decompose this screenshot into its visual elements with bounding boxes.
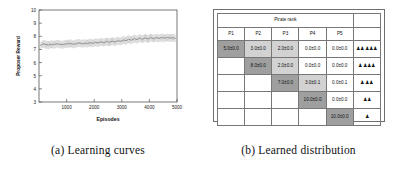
column-header-p2: P2: [245, 28, 272, 41]
svg-text:9: 9: [33, 21, 36, 26]
icon-column-corner: [353, 28, 380, 41]
panel-b-caption: (b) Learned distribution: [196, 144, 401, 156]
group-header-pirate-rank: Pirate rank: [218, 14, 354, 28]
table-group-header-row: Pirate rank: [218, 14, 381, 28]
value-cell-p2: 8.0±0.0: [245, 58, 272, 75]
panel-learned-distribution: Pirate rank P1P2P3P4P5 5.0±0.03.0±0.02.0…: [196, 0, 401, 170]
value-cell-p5: 0.0±0.0: [326, 92, 353, 109]
empty-cell: [245, 75, 272, 92]
table-row: 7.0±0.03.0±0.10.0±0.1♟♟♟: [218, 75, 381, 92]
svg-text:5000: 5000: [172, 105, 183, 110]
empty-cell: [218, 75, 245, 92]
svg-text:Episodes: Episodes: [96, 116, 119, 122]
pirate-count-icon: ♟♟♟: [353, 75, 380, 92]
column-header-p1: P1: [218, 28, 245, 41]
icon-column-corner-top: [353, 14, 380, 28]
value-cell-p3: 7.0±0.0: [272, 75, 299, 92]
chart-plot-area: 34567891010002000300040005000EpisodesPro…: [13, 6, 183, 124]
value-cell-p5: 0.0±0.0: [326, 58, 353, 75]
table-body: 5.0±0.03.0±0.02.0±0.00.0±0.00.0±0.0♟♟♟♟♟…: [218, 41, 381, 126]
value-cell-p1: 5.0±0.0: [218, 41, 245, 58]
figure-container: 34567891010002000300040005000EpisodesPro…: [0, 0, 401, 170]
table-row: 8.0±0.02.0±0.00.0±0.00.0±0.0♟♟♟♟: [218, 58, 381, 75]
distribution-table-frame: Pirate rank P1P2P3P4P5 5.0±0.03.0±0.02.0…: [213, 9, 385, 122]
column-header-p5: P5: [326, 28, 353, 41]
table-column-header-row: P1P2P3P4P5: [218, 28, 381, 41]
svg-text:2000: 2000: [89, 105, 100, 110]
svg-text:3000: 3000: [117, 105, 128, 110]
table-row: 10.0±0.00.0±0.0♟♟: [218, 92, 381, 109]
pirate-count-icon: ♟♟: [353, 92, 380, 109]
svg-text:6: 6: [33, 61, 36, 66]
svg-text:8: 8: [33, 34, 36, 39]
value-cell-p4: 0.0±0.0: [299, 41, 326, 58]
svg-text:5: 5: [33, 74, 36, 79]
empty-cell: [272, 109, 299, 126]
value-cell-p3: 2.0±0.0: [272, 58, 299, 75]
column-header-p4: P4: [299, 28, 326, 41]
learning-curve-chart: 34567891010002000300040005000EpisodesPro…: [13, 6, 183, 124]
panel-a-caption: (a) Learning curves: [0, 144, 196, 156]
svg-text:7: 7: [33, 47, 36, 52]
table-head: Pirate rank P1P2P3P4P5: [218, 14, 381, 41]
value-cell-p5: 0.0±0.0: [326, 41, 353, 58]
pirate-count-icon: ♟♟♟♟: [353, 58, 380, 75]
pirate-count-icon: ♟♟♟♟♟: [353, 41, 380, 58]
empty-cell: [245, 92, 272, 109]
column-header-p3: P3: [272, 28, 299, 41]
svg-text:4: 4: [33, 87, 36, 92]
value-cell-p4: 10.0±0.0: [299, 92, 326, 109]
pirate-count-icon: ♟: [353, 109, 380, 126]
empty-cell: [218, 58, 245, 75]
value-cell-p5: 10.0±0.0: [326, 109, 353, 126]
table-row: 5.0±0.03.0±0.02.0±0.00.0±0.00.0±0.0♟♟♟♟♟: [218, 41, 381, 58]
table-row: 10.0±0.0♟: [218, 109, 381, 126]
svg-text:1000: 1000: [61, 105, 72, 110]
empty-cell: [272, 92, 299, 109]
panel-learning-curves: 34567891010002000300040005000EpisodesPro…: [0, 0, 196, 170]
value-cell-p2: 3.0±0.0: [245, 41, 272, 58]
empty-cell: [218, 109, 245, 126]
value-cell-p4: 3.0±0.1: [299, 75, 326, 92]
distribution-table: Pirate rank P1P2P3P4P5 5.0±0.03.0±0.02.0…: [217, 13, 381, 126]
value-cell-p3: 2.0±0.0: [272, 41, 299, 58]
svg-text:3: 3: [33, 100, 36, 105]
empty-cell: [245, 109, 272, 126]
svg-text:10: 10: [31, 8, 37, 13]
svg-text:Proposer Reward: Proposer Reward: [16, 36, 21, 76]
value-cell-p5: 0.0±0.1: [326, 75, 353, 92]
empty-cell: [218, 92, 245, 109]
empty-cell: [299, 109, 326, 126]
value-cell-p4: 0.0±0.0: [299, 58, 326, 75]
svg-text:4000: 4000: [144, 105, 155, 110]
